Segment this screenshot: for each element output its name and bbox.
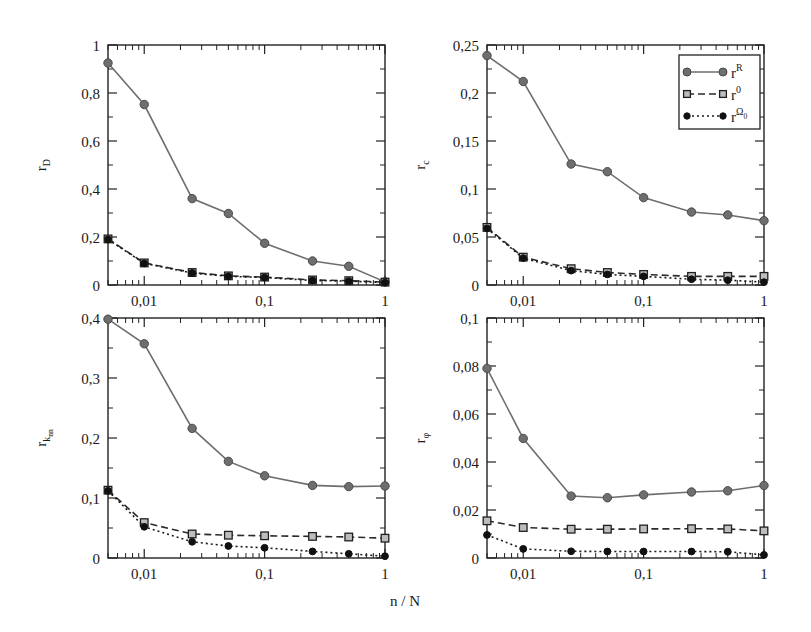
y-axis-label-text: rknn: [33, 429, 55, 447]
data-point: [724, 487, 732, 495]
data-point: [345, 533, 353, 541]
x-tick-label: 0,1: [634, 566, 653, 582]
series-r^R: [483, 364, 768, 502]
data-point: [225, 273, 232, 280]
data-point: [519, 434, 527, 442]
y-tick-label: 0,05: [453, 230, 479, 246]
data-point: [188, 194, 196, 202]
series-line: [108, 239, 385, 282]
data-point: [640, 548, 647, 555]
data-point: [224, 457, 232, 465]
y-tick-label: 0: [472, 278, 480, 294]
data-point: [568, 267, 575, 274]
series-line: [487, 521, 764, 531]
series-r^0: [483, 224, 768, 281]
series-r^0: [104, 235, 389, 286]
data-point: [760, 481, 768, 489]
data-point: [345, 278, 352, 285]
y-axis-label: rknn: [33, 429, 55, 447]
y-tick-label: 0,3: [81, 371, 100, 387]
y-axis-label-text: rD: [33, 159, 52, 171]
legend-marker: [720, 91, 727, 98]
series-line: [487, 227, 764, 276]
data-point: [568, 548, 575, 555]
y-axis-label: rφ: [412, 432, 431, 443]
data-point: [604, 525, 612, 533]
data-point: [381, 482, 389, 490]
data-point: [105, 236, 112, 243]
data-point: [639, 491, 647, 499]
series-r^Omega0: [484, 532, 768, 559]
data-point: [188, 424, 196, 432]
legend-marker: [720, 113, 726, 119]
series-line: [487, 535, 764, 555]
data-point: [687, 488, 695, 496]
data-point: [141, 523, 148, 530]
series-line: [108, 319, 385, 486]
data-point: [141, 260, 148, 267]
data-point: [309, 548, 316, 555]
data-point: [687, 208, 695, 216]
plot-frame: [108, 45, 385, 285]
data-point: [189, 270, 196, 277]
data-point: [345, 482, 353, 490]
y-tick-label: 0,4: [81, 311, 100, 327]
data-point: [261, 532, 269, 540]
data-point: [381, 534, 389, 542]
data-point: [189, 538, 196, 545]
figure-svg: 0,010,1100,20,40,60,81rD0,010,1100,050,1…: [0, 0, 811, 632]
data-point: [640, 525, 648, 533]
y-tick-label: 0,25: [453, 38, 479, 54]
data-point: [604, 271, 611, 278]
y-tick-label: 0,6: [81, 134, 100, 150]
data-point: [519, 524, 527, 532]
data-point: [604, 548, 611, 555]
y-tick-label: 0: [472, 551, 480, 567]
series-r^R: [104, 315, 389, 491]
y-tick-label: 0: [93, 551, 101, 567]
data-point: [688, 525, 696, 533]
legend-marker: [683, 68, 691, 76]
data-point: [484, 532, 491, 539]
x-tick-label: 0,01: [510, 293, 536, 309]
x-tick-label: 0,01: [131, 566, 157, 582]
plot-frame: [487, 318, 764, 558]
x-tick-label: 1: [381, 566, 389, 582]
y-tick-label: 0,06: [453, 407, 480, 423]
figure-root: 0,010,1100,20,40,60,81rD0,010,1100,050,1…: [0, 0, 811, 632]
y-axis-label-text: rc: [412, 160, 431, 170]
data-point: [483, 364, 491, 372]
legend-marker: [719, 68, 727, 76]
data-point: [639, 193, 647, 201]
series-r^0: [483, 517, 768, 535]
data-point: [105, 487, 112, 494]
data-point: [603, 494, 611, 502]
data-point: [484, 225, 491, 232]
data-point: [688, 548, 695, 555]
data-point: [760, 216, 768, 224]
x-tick-label: 1: [760, 293, 768, 309]
data-point: [483, 517, 491, 525]
y-axis-label: rc: [412, 160, 431, 170]
series-line: [487, 228, 764, 282]
data-point: [261, 544, 268, 551]
x-axis-label: n / N: [390, 593, 420, 609]
x-tick-label: 0,1: [255, 293, 274, 309]
data-point: [309, 533, 317, 541]
data-point: [104, 315, 112, 323]
panel-bottom-right: 0,010,1100,020,040,060,080,1rφ: [412, 311, 768, 583]
y-tick-label: 0: [93, 278, 101, 294]
y-tick-label: 0,2: [81, 431, 100, 447]
data-point: [483, 51, 491, 59]
data-point: [140, 340, 148, 348]
data-point: [308, 257, 316, 265]
data-point: [520, 255, 527, 262]
data-point: [640, 273, 647, 280]
legend-marker: [684, 113, 690, 119]
y-tick-label: 0,2: [460, 86, 479, 102]
data-point: [345, 550, 352, 557]
data-point: [308, 481, 316, 489]
y-tick-label: 0,2: [81, 230, 100, 246]
x-tick-label: 1: [381, 293, 389, 309]
y-tick-label: 1: [93, 38, 101, 54]
